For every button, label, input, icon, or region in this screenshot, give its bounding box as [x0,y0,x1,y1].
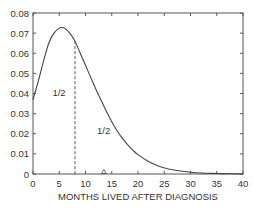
left-half-label: 1/2 [52,87,65,98]
x-tick-label: 10 [80,178,91,189]
x-tick-label: 0 [30,178,35,189]
tick-labels: 051015202530354000.010.020.030.040.050.0… [11,8,249,190]
x-tick-label: 15 [106,178,117,189]
y-tick-label: 0.08 [11,8,30,19]
y-tick-label: 0.02 [11,128,30,139]
y-tick-label: 0.05 [11,68,30,79]
x-tick-label: 35 [211,178,222,189]
x-tick-label: 25 [159,178,170,189]
x-tick-label: 20 [133,178,144,189]
y-tick-label: 0.01 [11,148,30,159]
y-tick-label: 0.06 [11,48,30,59]
y-tick-label: 0.03 [11,108,30,119]
x-tick-label: 5 [57,178,62,189]
x-axis-label: MONTHS LIVED AFTER DIAGNOSIS [58,191,218,202]
survival-density-chart: 051015202530354000.010.020.030.040.050.0… [0,0,253,211]
x-tick-label: 30 [185,178,196,189]
density-curve [33,27,243,174]
y-tick-label: 0.04 [11,88,30,99]
mean-triangle-marker [101,170,106,174]
right-half-label: 1/2 [97,125,110,136]
y-tick-label: 0.07 [11,28,30,39]
x-tick-label: 40 [238,178,249,189]
y-tick-label: 0 [24,169,29,180]
